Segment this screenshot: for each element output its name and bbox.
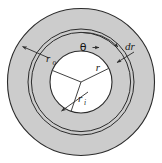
inner-radius-symbol: r [78,92,83,104]
inner-radius-subscript: i [84,98,86,107]
annulus-diagram: θ dr r o r r i [0,0,162,163]
theta-label: θ [80,41,87,54]
annulus-diagram-svg: θ dr r o r r i [0,0,162,163]
dr-label: dr [125,40,136,52]
outer-radius-subscript: o [53,58,57,67]
outer-radius-symbol: r [46,52,51,64]
radius-label: r [96,61,101,73]
